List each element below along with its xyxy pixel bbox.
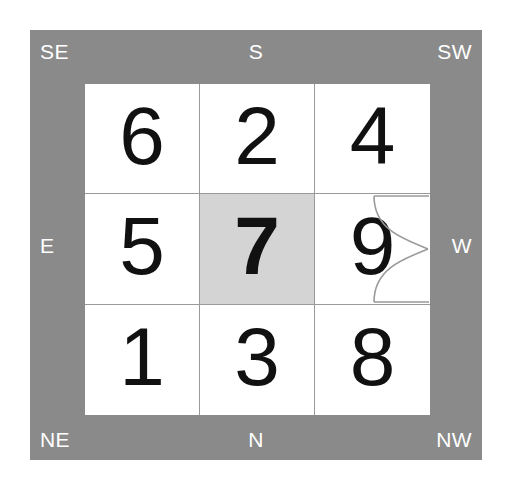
compass-label-nw: NW <box>436 429 472 450</box>
grid-cell[interactable]: 9 <box>315 194 430 304</box>
grid-cell-highlighted[interactable]: 7 <box>200 194 315 304</box>
grid-cell[interactable]: 8 <box>315 305 430 415</box>
compass-panel: SE S SW E W NE N NW 6 2 4 5 7 9 <box>30 30 482 460</box>
cell-number: 2 <box>234 95 280 177</box>
cell-number: 8 <box>350 316 396 398</box>
cell-number: 5 <box>119 205 165 287</box>
cell-number: 1 <box>119 316 165 398</box>
compass-label-n: N <box>30 429 482 450</box>
cell-number: 6 <box>119 95 165 177</box>
grid-cell[interactable]: 5 <box>85 194 200 304</box>
cell-number: 7 <box>234 205 280 287</box>
grid-cell[interactable]: 3 <box>200 305 315 415</box>
compass-label-w: W <box>452 30 472 460</box>
grid-cell[interactable]: 2 <box>200 84 315 194</box>
grid-cell[interactable]: 1 <box>85 305 200 415</box>
grid-cell[interactable]: 4 <box>315 84 430 194</box>
compass-label-e: E <box>40 30 54 460</box>
grid-cell[interactable]: 6 <box>85 84 200 194</box>
number-grid: 6 2 4 5 7 9 1 <box>85 84 430 415</box>
cell-number: 3 <box>234 316 280 398</box>
cell-number: 4 <box>350 95 396 177</box>
compass-label-s: S <box>30 41 482 62</box>
cell-number: 9 <box>350 205 396 287</box>
